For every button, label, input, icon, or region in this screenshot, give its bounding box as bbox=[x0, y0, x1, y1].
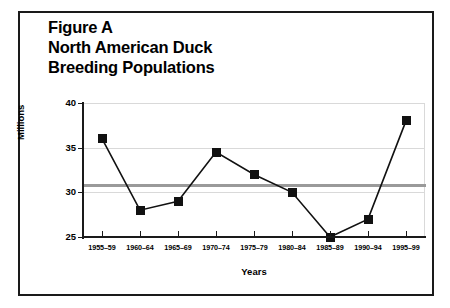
data-point-1975–79 bbox=[250, 170, 259, 179]
x-tick-mark-5 bbox=[292, 231, 293, 236]
x-tick-mark-8 bbox=[406, 231, 407, 236]
title-line-3: Breeding Populations bbox=[48, 57, 378, 77]
y-tick-label-35: 35 bbox=[46, 143, 76, 153]
data-point-1970–74 bbox=[212, 148, 221, 157]
x-axis-title: Years bbox=[83, 266, 425, 277]
data-point-1980–84 bbox=[288, 188, 297, 197]
y-tick-mark-40 bbox=[78, 103, 83, 104]
y-tick-mark-25 bbox=[78, 237, 83, 238]
title-line-2: North American Duck bbox=[48, 37, 378, 57]
data-point-1955–59 bbox=[98, 134, 107, 143]
x-tick-mark-4 bbox=[254, 231, 255, 236]
y-axis-tick-labels: 25303540 bbox=[42, 0, 76, 308]
x-tick-mark-7 bbox=[368, 231, 369, 236]
y-tick-mark-35 bbox=[78, 148, 83, 149]
data-point-1965–69 bbox=[174, 197, 183, 206]
data-point-1960–64 bbox=[136, 206, 145, 215]
x-tick-mark-6 bbox=[330, 231, 331, 236]
title-line-1: Figure A bbox=[48, 17, 378, 37]
y-tick-label-40: 40 bbox=[46, 98, 76, 108]
page-title: Figure A North American Duck Breeding Po… bbox=[48, 17, 378, 77]
x-tick-label-8: 1995–99 bbox=[376, 243, 436, 252]
plot-area-wrapper bbox=[83, 103, 425, 237]
y-tick-label-25: 25 bbox=[46, 232, 76, 242]
figure-screenshot: Figure A North American Duck Breeding Po… bbox=[0, 0, 450, 308]
y-axis-spine bbox=[82, 102, 84, 239]
x-axis-spine bbox=[82, 236, 426, 238]
x-tick-mark-1 bbox=[140, 231, 141, 236]
data-point-1995–99 bbox=[402, 116, 411, 125]
y-tick-label-30: 30 bbox=[46, 187, 76, 197]
y-tick-mark-30 bbox=[78, 192, 83, 193]
x-tick-mark-0 bbox=[102, 231, 103, 236]
data-point-1990–94 bbox=[364, 215, 373, 224]
x-tick-mark-3 bbox=[216, 231, 217, 236]
y-axis-title: Millions bbox=[15, 105, 26, 140]
x-tick-mark-2 bbox=[178, 231, 179, 236]
